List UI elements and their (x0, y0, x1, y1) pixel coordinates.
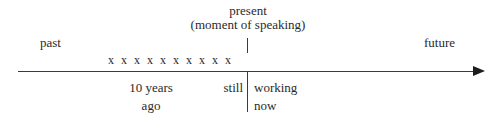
timeline-axis-line (18, 71, 480, 72)
occurrence-mark: x (173, 54, 179, 66)
duration-label-line2: ago (112, 99, 190, 112)
occurrence-mark: x (186, 54, 192, 66)
right-arrow-icon (473, 66, 485, 76)
timeline-diagram: present (moment of speaking) past future… (0, 0, 503, 117)
occurrence-mark: x (108, 54, 114, 66)
occurrence-mark: x (147, 54, 153, 66)
occurrence-mark: x (225, 54, 231, 66)
occurrence-mark: x (212, 54, 218, 66)
occurrence-mark: x (121, 54, 127, 66)
future-label: future (424, 36, 455, 49)
working-label: working (254, 81, 297, 94)
now-label: now (254, 99, 276, 112)
present-label: present (0, 4, 496, 17)
occurrence-marks-row: xxxxxxxxxx (108, 53, 231, 67)
occurrence-mark: x (134, 54, 140, 66)
still-label: still (160, 81, 243, 94)
occurrence-mark: x (199, 54, 205, 66)
occurrence-mark: x (160, 54, 166, 66)
vertical-divider-icon (247, 72, 248, 112)
past-label: past (40, 36, 61, 49)
moment-of-speaking-label: (moment of speaking) (0, 18, 496, 31)
vertical-tick-icon (247, 38, 248, 53)
